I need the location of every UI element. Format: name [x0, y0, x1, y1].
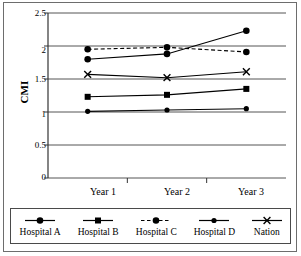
- legend-label: Hospital C: [136, 227, 177, 238]
- legend-row: Hospital AHospital BHospital CHospital D…: [11, 209, 290, 243]
- data-point-hospital-c-year-1: [84, 46, 91, 53]
- legend-label: Hospital A: [20, 227, 61, 238]
- data-point-hospital-b-year-2: [164, 92, 170, 98]
- data-point-hospital-d-year-2: [164, 107, 169, 112]
- legend-marker-point: [95, 217, 101, 223]
- legend-label: Nation: [254, 227, 280, 238]
- legend-item-hospital-b[interactable]: Hospital B: [69, 209, 127, 243]
- data-point-hospital-d-year-3: [244, 106, 249, 111]
- legend-marker-x-icon: [250, 215, 284, 226]
- legend-marker-square-icon: [81, 215, 115, 226]
- data-point-hospital-b-year-1: [85, 94, 91, 100]
- legend-marker-point: [153, 217, 160, 224]
- legend-marker-point: [212, 217, 217, 222]
- data-point-hospital-c-year-2: [164, 44, 171, 51]
- chart-legend: Hospital AHospital BHospital CHospital D…: [10, 208, 291, 244]
- legend-marker-circle-small-icon: [197, 215, 231, 226]
- legend-label: Hospital B: [78, 227, 119, 238]
- legend-item-nation[interactable]: Nation: [244, 209, 291, 243]
- legend-marker-circle-icon: [23, 215, 57, 226]
- data-point-hospital-d-year-1: [85, 109, 90, 114]
- legend-item-hospital-c[interactable]: Hospital C: [127, 209, 185, 243]
- data-point-hospital-a-year-2: [164, 51, 171, 58]
- legend-item-hospital-a[interactable]: Hospital A: [11, 209, 69, 243]
- legend-marker-point: [37, 217, 44, 224]
- legend-label: Hospital D: [194, 227, 235, 238]
- data-point-hospital-b-year-3: [243, 86, 249, 92]
- data-point-hospital-a-year-1: [84, 56, 91, 63]
- axis-ticks-group: [44, 13, 207, 183]
- series-markers-group: [84, 28, 249, 114]
- legend-item-hospital-d[interactable]: Hospital D: [185, 209, 243, 243]
- plot-area: CMI 2.5 2 1.5 1 0.5 0 Year 1 Year 2 Year…: [0, 0, 301, 200]
- legend-marker-circle-icon: [139, 215, 173, 226]
- data-point-hospital-c-year-3: [243, 49, 250, 56]
- series-lines-group: [88, 31, 247, 112]
- chart-plot-svg: [0, 0, 301, 200]
- data-point-hospital-a-year-3: [243, 28, 250, 35]
- chart-figure: CMI 2.5 2 1.5 1 0.5 0 Year 1 Year 2 Year…: [0, 0, 301, 256]
